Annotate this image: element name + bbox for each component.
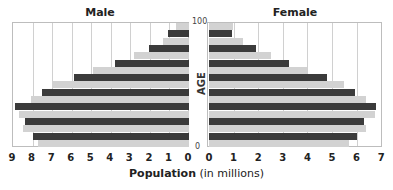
- female-bar-light: [209, 67, 307, 74]
- female-bar-light: [209, 125, 366, 132]
- female-bar-dark: [209, 60, 289, 67]
- female-bar-dark: [209, 30, 232, 37]
- male-bar-light: [176, 23, 189, 30]
- x-tick-male: 7: [44, 152, 58, 163]
- x-tick-female: 1: [227, 152, 241, 163]
- male-bar-light: [23, 125, 189, 132]
- male-title: Male: [60, 6, 140, 19]
- female-bar-light: [209, 96, 366, 103]
- x-tick-male: 2: [142, 152, 156, 163]
- male-bar-light: [134, 52, 189, 59]
- x-tick-female: 3: [276, 152, 290, 163]
- x-tick-male: 3: [122, 152, 136, 163]
- x-axis-label-bold: Population: [129, 167, 196, 180]
- female-bar-light: [209, 38, 243, 45]
- male-bar-dark: [25, 118, 189, 125]
- x-tick-female: 4: [300, 152, 314, 163]
- female-bar-dark: [209, 103, 376, 110]
- x-tick-female: 7: [374, 152, 388, 163]
- x-axis-label: Population (in millions): [0, 167, 393, 180]
- x-tick-female: 2: [251, 152, 265, 163]
- x-tick-male: 4: [103, 152, 117, 163]
- male-bar-dark: [168, 30, 189, 37]
- female-bar-light: [209, 140, 349, 147]
- male-bar-dark: [42, 89, 189, 96]
- age-tick-100: 100: [192, 17, 207, 26]
- female-bar-light: [209, 81, 344, 88]
- female-bar-light: [209, 111, 375, 118]
- male-bar-dark: [115, 60, 189, 67]
- female-plot-area: [207, 22, 382, 147]
- age-axis-title: AGE: [196, 72, 207, 95]
- x-tick-male: 9: [5, 152, 19, 163]
- female-bar-dark: [209, 89, 355, 96]
- x-tick-male: 8: [25, 152, 39, 163]
- x-tick-female: 6: [350, 152, 364, 163]
- female-title: Female: [255, 6, 335, 19]
- x-tick-male: 0: [181, 152, 195, 163]
- male-bar-dark: [74, 74, 189, 81]
- x-tick-male: 5: [83, 152, 97, 163]
- male-bar-light: [31, 96, 189, 103]
- male-bar-dark: [149, 45, 189, 52]
- female-bar-dark: [209, 74, 327, 81]
- male-bar-dark: [33, 133, 189, 140]
- female-bar-dark: [209, 133, 357, 140]
- female-bar-dark: [209, 118, 364, 125]
- x-axis-label-unit: (in millions): [196, 167, 264, 180]
- x-tick-female: 0: [202, 152, 216, 163]
- female-bar-dark: [209, 45, 256, 52]
- male-bar-light: [19, 111, 189, 118]
- x-tick-male: 1: [161, 152, 175, 163]
- age-tick-0: 0: [195, 142, 200, 151]
- male-bar-dark: [15, 103, 189, 110]
- male-bar-light: [52, 81, 189, 88]
- male-bar-light: [163, 38, 189, 45]
- male-bar-light: [38, 140, 189, 147]
- male-plot-area: [12, 22, 189, 147]
- male-bar-light: [93, 67, 189, 74]
- female-bar-light: [209, 23, 233, 30]
- x-tick-male: 6: [64, 152, 78, 163]
- x-tick-female: 5: [325, 152, 339, 163]
- female-bar-light: [209, 52, 271, 59]
